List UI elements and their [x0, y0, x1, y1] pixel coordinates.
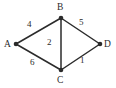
- edge-a-c: [16, 44, 61, 70]
- edge-weight-a-c: 6: [30, 58, 35, 67]
- node-b: [59, 16, 64, 21]
- edge-weight-b-c: 2: [47, 38, 52, 47]
- node-label-b: B: [57, 3, 63, 13]
- node-label-c: C: [57, 76, 63, 86]
- edge-weight-a-b: 4: [27, 20, 32, 29]
- node-c: [59, 68, 64, 73]
- node-label-d: D: [104, 40, 111, 50]
- edge-weight-c-d: 1: [80, 56, 85, 65]
- edge-weight-b-d: 5: [79, 18, 84, 27]
- graph-diagram: A B C D 4 5 2 6 1: [0, 0, 116, 88]
- node-d: [98, 42, 103, 47]
- edge-a-b: [16, 18, 61, 44]
- node-label-a: A: [4, 40, 11, 50]
- node-a: [14, 42, 19, 47]
